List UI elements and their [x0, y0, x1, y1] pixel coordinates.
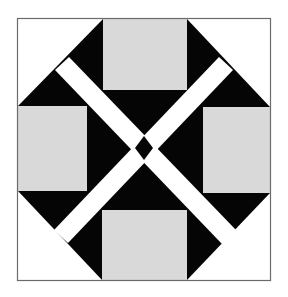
gray-square-right: [203, 107, 270, 193]
quilt-block-figure: [0, 0, 288, 297]
gray-square-bottom: [102, 210, 187, 280]
gray-square-top: [103, 19, 187, 90]
gray-square-left: [18, 106, 87, 191]
